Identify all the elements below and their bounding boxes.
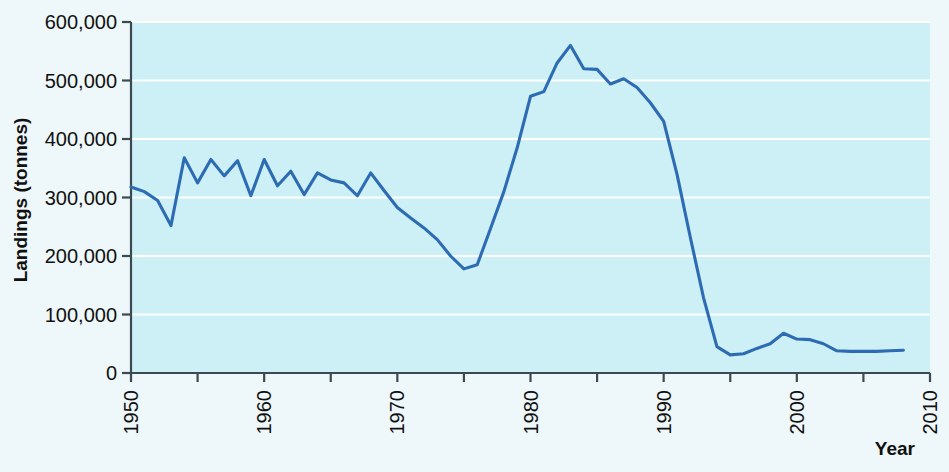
y-tick-label: 500,000 xyxy=(45,70,117,92)
y-tick-label: 600,000 xyxy=(45,11,117,33)
x-tick-label: 1960 xyxy=(253,390,275,435)
x-axis-tick-labels: 1950196019701980199020002010 xyxy=(120,390,941,435)
y-axis-tick-labels: 0100,000200,000300,000400,000500,000600,… xyxy=(45,11,117,384)
y-tick-label: 300,000 xyxy=(45,187,117,209)
chart-container: 0100,000200,000300,000400,000500,000600,… xyxy=(0,0,949,472)
x-axis-title: Year xyxy=(875,438,916,459)
y-axis-title: Landings (tonnes) xyxy=(10,118,31,283)
x-tick-label: 2010 xyxy=(919,390,941,435)
y-axis-ticks xyxy=(122,22,131,373)
x-tick-label: 1990 xyxy=(653,390,675,435)
x-tick-label: 2000 xyxy=(786,390,808,435)
x-axis-ticks xyxy=(131,373,930,382)
x-tick-label: 1970 xyxy=(386,390,408,435)
line-chart: 0100,000200,000300,000400,000500,000600,… xyxy=(0,0,949,472)
y-tick-label: 400,000 xyxy=(45,128,117,150)
y-tick-label: 200,000 xyxy=(45,245,117,267)
y-tick-label: 100,000 xyxy=(45,304,117,326)
x-tick-label: 1980 xyxy=(520,390,542,435)
x-tick-label: 1950 xyxy=(120,390,142,435)
y-tick-label: 0 xyxy=(106,362,117,384)
